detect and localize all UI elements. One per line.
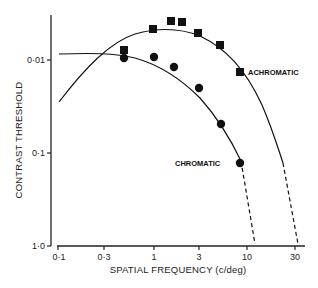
y-axis-title: CONTRAST THRESHOLD <box>13 82 24 199</box>
y-tick-label-1.0: 1·0 <box>32 241 45 251</box>
achromatic-label: ACHROMATIC <box>248 68 299 77</box>
achromatic-points <box>120 17 244 76</box>
y-axis: 0·01 0·1 1·0 CONTRAST THRESHOLD <box>13 15 51 251</box>
x-tick-label-30: 30 <box>290 252 300 262</box>
x-tick-label-10: 10 <box>242 252 252 262</box>
achromatic-fit-curve <box>59 29 298 244</box>
x-axis-title: SPATIAL FREQUENCY (c/deg) <box>110 264 247 275</box>
chromatic-points <box>120 53 244 167</box>
y-tick-label-0.01: 0·01 <box>27 55 45 65</box>
x-tick-label-1: 1 <box>151 252 156 262</box>
x-tick-label-0.3: 0·3 <box>97 252 110 262</box>
chromatic-fit-curve <box>59 53 255 244</box>
x-axis: 0·1 0·3 1 3 10 30 SPATIAL FREQUENCY (c/d… <box>52 246 305 275</box>
chromatic-label: CHROMATIC <box>175 159 221 168</box>
contrast-sensitivity-chart: 0·01 0·1 1·0 CONTRAST THRESHOLD 0·1 0·3 … <box>0 0 318 288</box>
y-tick-label-0.1: 0·1 <box>32 148 45 158</box>
x-tick-label-0.1: 0·1 <box>52 252 65 262</box>
x-tick-label-3: 3 <box>196 252 201 262</box>
